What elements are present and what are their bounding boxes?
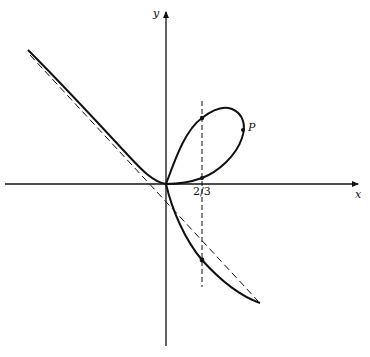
curve-loop: [166, 108, 244, 184]
intersection-point-upper: [200, 116, 204, 120]
point-p-label: P: [248, 122, 255, 133]
intersection-point-lower: [200, 176, 204, 180]
plot-svg: [0, 0, 370, 357]
curve-upper-branch: [28, 50, 166, 184]
y-axis-label: y: [153, 8, 159, 19]
curve-lower-branch: [166, 184, 260, 303]
intersection-point-branch: [200, 258, 205, 263]
x-axis-label: x: [355, 189, 361, 200]
figure-canvas: y x 2/3 P: [0, 0, 370, 357]
tick-label-two-thirds: 2/3: [193, 186, 211, 197]
asymptote-line: [30, 55, 258, 301]
point-p-marker: [241, 128, 245, 132]
